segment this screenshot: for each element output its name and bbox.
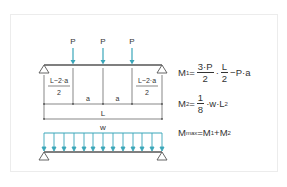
formula-m2: M2= 18 ·w·L2: [178, 92, 228, 115]
denominator: 2: [222, 73, 227, 84]
bottom-beam-group: w: [39, 123, 167, 160]
mmax-symbol: M: [178, 127, 186, 138]
right-support-icon: [157, 152, 167, 160]
equals: =: [189, 67, 195, 78]
point-load-1: P: [70, 37, 75, 65]
left-support-icon: [39, 152, 49, 160]
plus-m: +M: [214, 127, 227, 138]
dot: ·: [216, 67, 219, 78]
formula-mmax: Mmax=M1+M2: [178, 127, 231, 138]
fraction: 3·P2: [197, 61, 214, 84]
beam-diagram: P P P L−2·a 2 a a: [0, 0, 287, 187]
right-edge-dim-numerator: L−2·a: [138, 77, 156, 84]
formula-tail: ·w·L: [206, 98, 224, 109]
m1-symbol: M: [178, 67, 186, 78]
point-load-2: P: [100, 37, 105, 65]
point-load-label: P: [70, 37, 75, 46]
inner-dim-left: a: [86, 95, 90, 102]
left-edge-dim-numerator: L−2·a: [50, 77, 68, 84]
top-beam-group: P P P: [39, 37, 167, 73]
fraction: 18: [197, 92, 204, 115]
equals-m: =M: [197, 127, 210, 138]
fraction: L2: [221, 61, 228, 84]
right-support-icon: [157, 65, 167, 73]
right-edge-dim-denominator: 2: [145, 89, 149, 96]
mmax-subscript: max: [186, 130, 197, 136]
denominator: 2: [203, 73, 208, 84]
numerator: L: [221, 61, 228, 73]
point-load-label: P: [129, 37, 134, 46]
left-edge-dim-denominator: 2: [57, 89, 61, 96]
numerator: 3·P: [197, 61, 214, 73]
formula-tail: −P·a: [230, 67, 250, 78]
formula-m1: M1= 3·P2 · L2 −P·a: [178, 61, 250, 84]
inner-dim-right: a: [116, 95, 120, 102]
point-load-3: P: [129, 37, 134, 65]
numerator: 1: [197, 92, 204, 104]
m2-symbol: M: [178, 98, 186, 109]
equals: =: [189, 98, 195, 109]
left-support-icon: [39, 65, 49, 73]
subscript: 2: [228, 130, 231, 136]
denominator: 8: [198, 104, 203, 115]
total-span-label: L: [101, 109, 106, 118]
superscript: 2: [225, 101, 228, 107]
distributed-load-arrows: [42, 133, 164, 151]
point-load-label: P: [100, 37, 105, 46]
distributed-load-label: w: [99, 123, 106, 132]
